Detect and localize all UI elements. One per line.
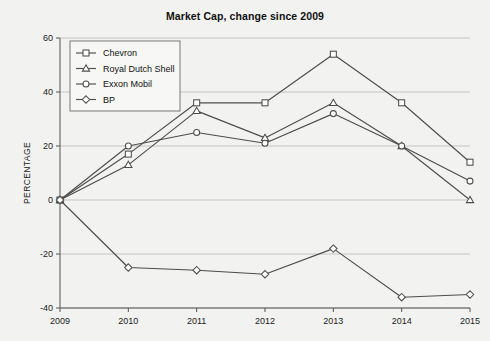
marker-square bbox=[399, 100, 405, 106]
marker-triangle bbox=[330, 99, 337, 105]
marker-square bbox=[330, 51, 336, 57]
marker-diamond bbox=[398, 294, 405, 301]
y-tick-label: -40 bbox=[40, 303, 53, 313]
marker-circle bbox=[330, 111, 336, 117]
y-tick-label: 60 bbox=[43, 33, 53, 43]
legend-label: Exxon Mobil bbox=[103, 79, 152, 89]
marker-diamond bbox=[466, 291, 473, 298]
x-tick-label: 2014 bbox=[392, 316, 412, 326]
legend-label: Chevron bbox=[103, 48, 137, 58]
y-tick-label: 40 bbox=[43, 87, 53, 97]
y-tick-label: 0 bbox=[48, 195, 53, 205]
y-axis-ticks: -40-200204060 bbox=[40, 33, 60, 313]
x-tick-label: 2012 bbox=[255, 316, 275, 326]
marker-circle bbox=[125, 143, 131, 149]
marker-circle bbox=[467, 178, 473, 184]
series-bp bbox=[56, 196, 473, 301]
legend-label: Royal Dutch Shell bbox=[103, 64, 175, 74]
marker-square bbox=[83, 50, 89, 56]
x-tick-label: 2011 bbox=[187, 316, 206, 326]
marker-circle bbox=[194, 130, 200, 136]
x-tick-label: 2010 bbox=[118, 316, 138, 326]
line-chart-plot: -40-200204060 20092010201120122013201420… bbox=[0, 0, 490, 341]
x-tick-label: 2013 bbox=[323, 316, 343, 326]
marker-circle bbox=[83, 81, 89, 87]
marker-triangle bbox=[193, 107, 200, 113]
marker-diamond bbox=[261, 271, 268, 278]
x-axis-ticks: 2009201020112012201320142015 bbox=[50, 308, 480, 326]
marker-square bbox=[262, 100, 268, 106]
series-line bbox=[60, 114, 470, 200]
x-tick-label: 2009 bbox=[50, 316, 70, 326]
y-axis-title: PERCENTAGE bbox=[22, 142, 32, 204]
chart-container: Market Cap, change since 2009 -40-200204… bbox=[0, 0, 490, 341]
series-line bbox=[60, 200, 470, 297]
marker-diamond bbox=[193, 267, 200, 274]
marker-circle bbox=[399, 143, 405, 149]
marker-circle bbox=[262, 140, 268, 146]
legend-label: BP bbox=[103, 95, 115, 105]
chart-legend: ChevronRoyal Dutch ShellExxon MobilBP bbox=[70, 41, 180, 111]
y-tick-label: -20 bbox=[40, 249, 53, 259]
x-tick-label: 2015 bbox=[460, 316, 480, 326]
marker-square bbox=[467, 159, 473, 165]
series-exxon-mobil bbox=[57, 111, 473, 203]
y-tick-label: 20 bbox=[43, 141, 53, 151]
marker-square bbox=[125, 151, 131, 157]
marker-diamond bbox=[330, 245, 337, 252]
marker-square bbox=[194, 100, 200, 106]
